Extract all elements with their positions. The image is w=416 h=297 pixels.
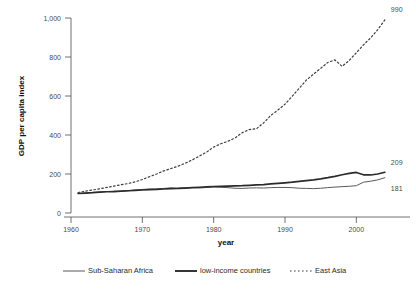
x-tick-label: 1980 [206,226,222,233]
endpoint-label-sub-saharan-africa: 181 [391,185,403,192]
y-tick-label: 800 [49,54,61,61]
y-tick-label: 400 [49,132,61,139]
x-tick-label: 1960 [63,226,79,233]
gdp-per-capita-line-chart: 02004006008001,000 GDP per capita index … [0,0,416,297]
endpoint-label-east-asia: 990 [391,6,403,13]
chart-figure: 02004006008001,000 GDP per capita index … [0,0,416,297]
x-axis-title: year [218,238,234,247]
chart-legend: Sub-Saharan Africalow-income countriesEa… [63,266,347,275]
y-axis-ticks: 02004006008001,000 [43,15,71,217]
y-tick-label: 200 [49,171,61,178]
x-tick-label: 1970 [135,226,151,233]
y-tick-label: 1,000 [43,15,61,22]
x-tick-label: 1990 [277,226,293,233]
series-line-low-income-countries [78,172,385,193]
legend-label-low-income-countries: low-income countries [200,266,271,275]
x-tick-label: 2000 [349,226,365,233]
y-axis-title: GDP per capita index [17,75,26,156]
endpoint-label-layer: 181209990 [391,6,403,192]
endpoint-label-low-income-countries: 209 [391,159,403,166]
x-axis-ticks: 19601970198019902000 [63,217,364,233]
y-tick-label: 0 [57,210,61,217]
series-layer [78,20,385,194]
x-axis-group: 19601970198019902000 year [63,217,410,247]
legend-label-sub-saharan-africa: Sub-Saharan Africa [88,266,154,275]
legend-label-east-asia: East Asia [315,266,347,275]
y-axis-group: 02004006008001,000 GDP per capita index [17,15,71,217]
y-tick-label: 600 [49,93,61,100]
series-line-east-asia [78,20,385,193]
